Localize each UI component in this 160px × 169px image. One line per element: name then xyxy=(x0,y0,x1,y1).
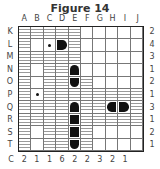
grid-cell-HP[interactable] xyxy=(106,89,118,101)
grid-cell-GM[interactable] xyxy=(93,52,105,64)
grid-cell-BK[interactable] xyxy=(31,27,43,39)
grid-cell-GT[interactable] xyxy=(93,139,105,151)
grid-cell-HM[interactable] xyxy=(106,52,118,64)
grid-cell-EK[interactable] xyxy=(69,27,81,39)
grid-cell-CK[interactable] xyxy=(44,27,56,39)
grid-cell-JK[interactable] xyxy=(131,27,143,39)
grid-cell-GK[interactable] xyxy=(93,27,105,39)
grid-cell-ET[interactable] xyxy=(69,139,81,151)
grid-cell-AM[interactable] xyxy=(19,52,31,64)
grid-cell-CR[interactable] xyxy=(44,114,56,126)
grid-cell-JM[interactable] xyxy=(131,52,143,64)
grid-cell-FT[interactable] xyxy=(81,139,93,151)
grid-cell-JP[interactable] xyxy=(131,89,143,101)
grid-cell-IP[interactable] xyxy=(118,89,130,101)
grid-cell-JS[interactable] xyxy=(131,126,143,138)
grid-cell-DT[interactable] xyxy=(56,139,68,151)
grid-cell-EP[interactable] xyxy=(69,89,81,101)
grid-cell-FK[interactable] xyxy=(81,27,93,39)
grid-cell-BS[interactable] xyxy=(31,126,43,138)
grid-cell-IN[interactable] xyxy=(118,64,130,76)
grid-cell-GS[interactable] xyxy=(93,126,105,138)
grid-cell-HS[interactable] xyxy=(106,126,118,138)
grid-cell-FR[interactable] xyxy=(81,114,93,126)
grid-cell-DR[interactable] xyxy=(56,114,68,126)
grid-cell-AL[interactable] xyxy=(19,39,31,51)
grid-cell-IT[interactable] xyxy=(118,139,130,151)
grid-cell-AK[interactable] xyxy=(19,27,31,39)
grid-cell-FS[interactable] xyxy=(81,126,93,138)
grid-cell-FL[interactable] xyxy=(81,39,93,51)
grid-cell-ES[interactable] xyxy=(69,126,81,138)
grid-cell-BM[interactable] xyxy=(31,52,43,64)
grid-cell-DL[interactable] xyxy=(56,39,68,51)
grid-cell-ER[interactable] xyxy=(69,114,81,126)
grid-cell-BP[interactable] xyxy=(31,89,43,101)
grid-cell-CL[interactable] xyxy=(44,39,56,51)
grid-cell-DK[interactable] xyxy=(56,27,68,39)
grid-cell-AO[interactable] xyxy=(19,77,31,89)
grid-cell-JO[interactable] xyxy=(131,77,143,89)
grid-cell-JQ[interactable] xyxy=(131,101,143,113)
grid-cell-DS[interactable] xyxy=(56,126,68,138)
grid-cell-DM[interactable] xyxy=(56,52,68,64)
grid-cell-IK[interactable] xyxy=(118,27,130,39)
grid-cell-EN[interactable] xyxy=(69,64,81,76)
grid-cell-CM[interactable] xyxy=(44,52,56,64)
grid-cell-CO[interactable] xyxy=(44,77,56,89)
grid-cell-JL[interactable] xyxy=(131,39,143,51)
grid-cell-CP[interactable] xyxy=(44,89,56,101)
grid-cell-CQ[interactable] xyxy=(44,101,56,113)
grid-cell-BL[interactable] xyxy=(31,39,43,51)
grid-cell-GO[interactable] xyxy=(93,77,105,89)
grid-cell-BO[interactable] xyxy=(31,77,43,89)
grid-cell-FP[interactable] xyxy=(81,89,93,101)
grid-cell-JR[interactable] xyxy=(131,114,143,126)
grid-cell-FQ[interactable] xyxy=(81,101,93,113)
grid-cell-CT[interactable] xyxy=(44,139,56,151)
grid-cell-IO[interactable] xyxy=(118,77,130,89)
grid-cell-FN[interactable] xyxy=(81,64,93,76)
grid-cell-FM[interactable] xyxy=(81,52,93,64)
grid-cell-DP[interactable] xyxy=(56,89,68,101)
grid-cell-HR[interactable] xyxy=(106,114,118,126)
grid-cell-AT[interactable] xyxy=(19,139,31,151)
grid-cell-AR[interactable] xyxy=(19,114,31,126)
grid-cell-FO[interactable] xyxy=(81,77,93,89)
grid-cell-AN[interactable] xyxy=(19,64,31,76)
grid-cell-GR[interactable] xyxy=(93,114,105,126)
grid-cell-JT[interactable] xyxy=(131,139,143,151)
grid-cell-GP[interactable] xyxy=(93,89,105,101)
grid-cell-EO[interactable] xyxy=(69,77,81,89)
grid-cell-EQ[interactable] xyxy=(69,101,81,113)
grid-cell-EM[interactable] xyxy=(69,52,81,64)
grid-cell-GL[interactable] xyxy=(93,39,105,51)
grid-cell-DQ[interactable] xyxy=(56,101,68,113)
grid-cell-DN[interactable] xyxy=(56,64,68,76)
grid-cell-HO[interactable] xyxy=(106,77,118,89)
grid-cell-IM[interactable] xyxy=(118,52,130,64)
grid-cell-IS[interactable] xyxy=(118,126,130,138)
grid-cell-BR[interactable] xyxy=(31,114,43,126)
grid-cell-IQ[interactable] xyxy=(118,101,130,113)
grid-cell-IL[interactable] xyxy=(118,39,130,51)
grid-cell-BT[interactable] xyxy=(31,139,43,151)
grid-cell-EL[interactable] xyxy=(69,39,81,51)
grid-cell-HK[interactable] xyxy=(106,27,118,39)
grid-cell-AP[interactable] xyxy=(19,89,31,101)
grid-cell-CS[interactable] xyxy=(44,126,56,138)
grid-cell-CN[interactable] xyxy=(44,64,56,76)
grid-cell-DO[interactable] xyxy=(56,77,68,89)
grid-cell-IR[interactable] xyxy=(118,114,130,126)
grid-cell-HT[interactable] xyxy=(106,139,118,151)
grid-cell-JN[interactable] xyxy=(131,64,143,76)
grid-cell-AQ[interactable] xyxy=(19,101,31,113)
grid-cell-GN[interactable] xyxy=(93,64,105,76)
grid-cell-AS[interactable] xyxy=(19,126,31,138)
grid-cell-BN[interactable] xyxy=(31,64,43,76)
grid-cell-HQ[interactable] xyxy=(106,101,118,113)
grid-cell-HN[interactable] xyxy=(106,64,118,76)
grid-cell-HL[interactable] xyxy=(106,39,118,51)
grid-cell-GQ[interactable] xyxy=(93,101,105,113)
grid-cell-BQ[interactable] xyxy=(31,101,43,113)
